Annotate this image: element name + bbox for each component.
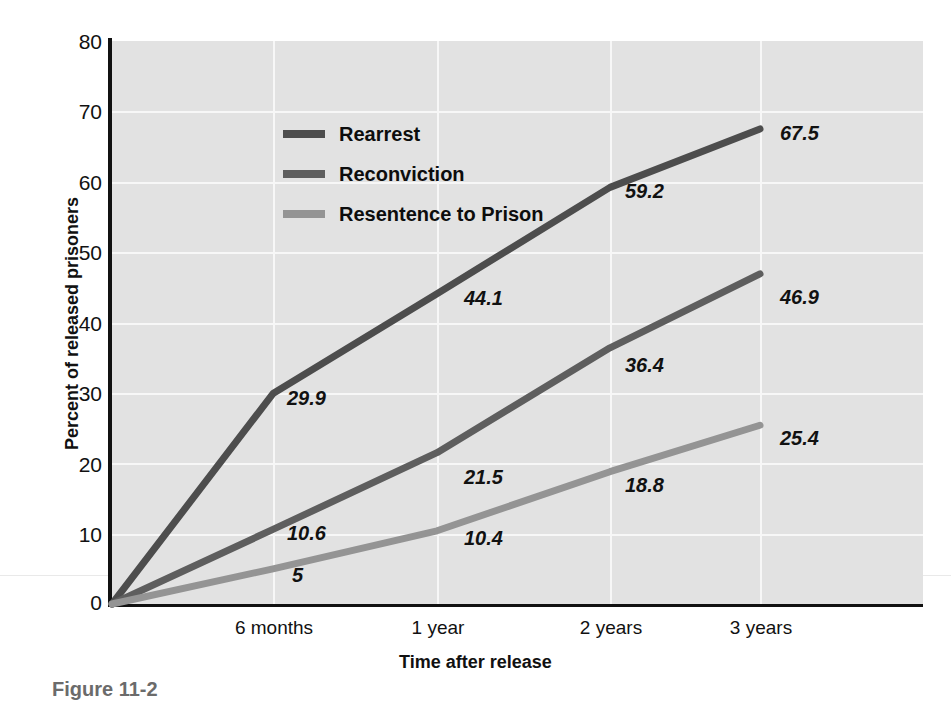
legend-item-resentence: Resentence to Prison (283, 199, 544, 229)
legend-swatch-reconviction (283, 170, 325, 178)
y-axis-title-wrap: Percent of released prisoners (44, 41, 74, 604)
data-label-reconviction-1yr: 21.5 (464, 466, 503, 489)
legend-label-resentence: Resentence to Prison (339, 203, 544, 226)
legend: Rearrest Reconviction Resentence to Pris… (283, 119, 544, 239)
data-label-reconviction-2yr: 36.4 (625, 354, 664, 377)
x-tick-3-years: 3 years (730, 617, 792, 639)
data-label-resentence-1yr: 10.4 (464, 527, 503, 550)
figure-caption: Figure 11-2 (52, 678, 158, 701)
legend-item-rearrest: Rearrest (283, 119, 544, 149)
data-label-rearrest-2yr: 59.2 (625, 180, 664, 203)
data-label-rearrest-3yr: 67.5 (780, 122, 819, 145)
data-label-resentence-2yr: 18.8 (625, 474, 664, 497)
x-tick-2-years: 2 years (580, 617, 642, 639)
data-label-resentence-3yr: 25.4 (780, 427, 819, 450)
legend-swatch-rearrest (283, 130, 325, 138)
series-line-reconviction (112, 274, 760, 604)
x-tick-6-months: 6 months (235, 617, 313, 639)
legend-label-reconviction: Reconviction (339, 163, 465, 186)
x-tick-1-year: 1 year (412, 617, 465, 639)
data-label-rearrest-6mo: 29.9 (287, 387, 326, 410)
y-axis-title: Percent of released prisoners (62, 64, 83, 584)
x-axis-title: Time after release (0, 652, 951, 673)
data-label-reconviction-3yr: 46.9 (780, 286, 819, 309)
figure-root: 80 70 60 50 40 30 20 10 0 Percent of rel… (0, 0, 951, 701)
data-label-reconviction-6mo: 10.6 (287, 522, 326, 545)
legend-swatch-resentence (283, 210, 325, 218)
plot-area: Rearrest Reconviction Resentence to Pris… (112, 41, 923, 604)
legend-label-rearrest: Rearrest (339, 123, 420, 146)
data-label-rearrest-1yr: 44.1 (464, 287, 503, 310)
legend-item-reconviction: Reconviction (283, 159, 544, 189)
data-label-resentence-6mo: 5 (292, 564, 303, 587)
